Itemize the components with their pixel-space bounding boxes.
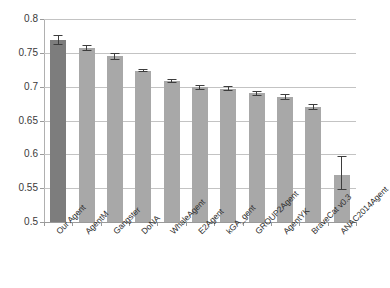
error-bar-cap-bottom [252,95,261,96]
bar [135,71,151,222]
error-bar-cap-bottom [54,44,63,45]
bar-group [129,19,157,222]
y-axis-tick-label: 0.6 [4,149,38,159]
error-bar [252,91,261,96]
error-bar-cap-top [139,69,148,70]
bar [220,89,236,222]
bar-group [72,19,100,222]
y-axis-tick-label: 0.5 [4,217,38,227]
bar-group [328,19,356,222]
error-bar-cap-top [167,79,176,80]
bar-group [214,19,242,222]
error-bar-cap-bottom [337,189,346,190]
bar [164,81,180,222]
bar [249,93,265,222]
bar [50,40,66,222]
bar-group [299,19,327,222]
error-bar [309,104,318,109]
y-axis-tick-label: 0.8 [4,14,38,24]
bar-group [44,19,72,222]
error-bar-cap-bottom [309,109,318,110]
bar-group [243,19,271,222]
error-bar-cap-bottom [110,59,119,60]
bar [79,48,95,222]
error-bar-cap-top [309,104,318,105]
bar-group [186,19,214,222]
error-bar-cap-bottom [82,50,91,51]
bar-group [101,19,129,222]
error-bar-cap-bottom [224,90,233,91]
error-bar [82,45,91,50]
error-bar-cap-bottom [195,89,204,90]
bars-layer [44,19,356,222]
error-bar [337,156,346,190]
error-bar-cap-top [252,91,261,92]
error-bar [224,86,233,91]
error-bar [54,35,63,44]
x-axis-tick-mark [44,222,45,226]
error-bar-cap-top [82,45,91,46]
error-bar [167,79,176,83]
y-axis-tick-label: 0.75 [4,48,38,58]
error-bar-cap-top [110,53,119,54]
y-axis-tick-label: 0.55 [4,183,38,193]
y-axis-tick-label: 0.65 [4,116,38,126]
error-bar [195,85,204,90]
error-bar-stem [341,156,342,190]
bar-group [157,19,185,222]
error-bar-cap-top [224,86,233,87]
error-bar-cap-top [54,35,63,36]
error-bar [139,69,148,72]
bar [305,107,321,222]
error-bar-cap-top [195,85,204,86]
bar [107,56,123,222]
error-bar [110,53,119,60]
error-bar-cap-bottom [281,99,290,100]
y-axis-tick-label: 0.7 [4,82,38,92]
error-bar [281,94,290,99]
error-bar-cap-top [281,94,290,95]
error-bar-cap-bottom [139,71,148,72]
error-bar-cap-top [337,156,346,157]
error-bar-cap-bottom [167,82,176,83]
